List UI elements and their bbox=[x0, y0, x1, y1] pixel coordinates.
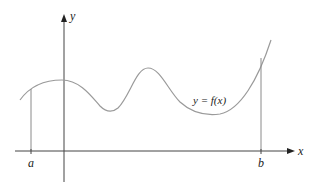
curve-label: y = f(x) bbox=[192, 94, 226, 107]
x-axis-arrow-icon bbox=[287, 148, 295, 154]
function-graph-diagram: x y a b y = f(x) bbox=[0, 0, 317, 189]
y-axis-arrow-icon bbox=[61, 14, 67, 22]
right-bound-label: b bbox=[258, 156, 264, 170]
left-bound-label: a bbox=[28, 156, 34, 170]
y-axis-label: y bbox=[69, 9, 76, 23]
x-axis-label: x bbox=[297, 144, 304, 158]
function-curve bbox=[20, 40, 271, 115]
